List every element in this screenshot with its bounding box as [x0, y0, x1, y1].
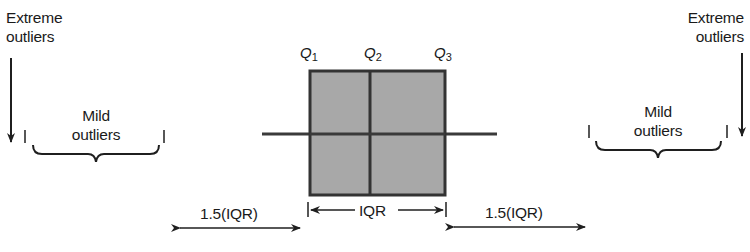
- left-fence-label: 1.5(IQR): [200, 204, 258, 223]
- q3-label: Q3: [434, 44, 452, 63]
- left-extreme-line1: Extreme: [6, 8, 62, 27]
- left-mild-brace: [33, 145, 159, 162]
- right-fence-label: 1.5(IQR): [485, 203, 543, 222]
- right-mild-outliers-label: Mild outliers: [622, 102, 694, 140]
- left-extreme-outliers-label: Extreme outliers: [6, 8, 62, 46]
- right-extreme-line1: Extreme: [660, 8, 744, 27]
- right-mild-brace: [596, 141, 721, 158]
- left-mild-line2: outliers: [60, 125, 132, 144]
- right-mild-line2: outliers: [622, 121, 694, 140]
- q1-label: Q1: [300, 44, 318, 63]
- iqr-label: IQR: [359, 201, 386, 220]
- right-extreme-outliers-label: Extreme outliers: [660, 8, 744, 46]
- left-extreme-line2: outliers: [6, 27, 62, 46]
- right-extreme-line2: outliers: [660, 27, 744, 46]
- left-mild-outliers-label: Mild outliers: [60, 106, 132, 144]
- right-mild-line1: Mild: [622, 102, 694, 121]
- left-mild-line1: Mild: [60, 106, 132, 125]
- q2-label: Q2: [364, 44, 382, 63]
